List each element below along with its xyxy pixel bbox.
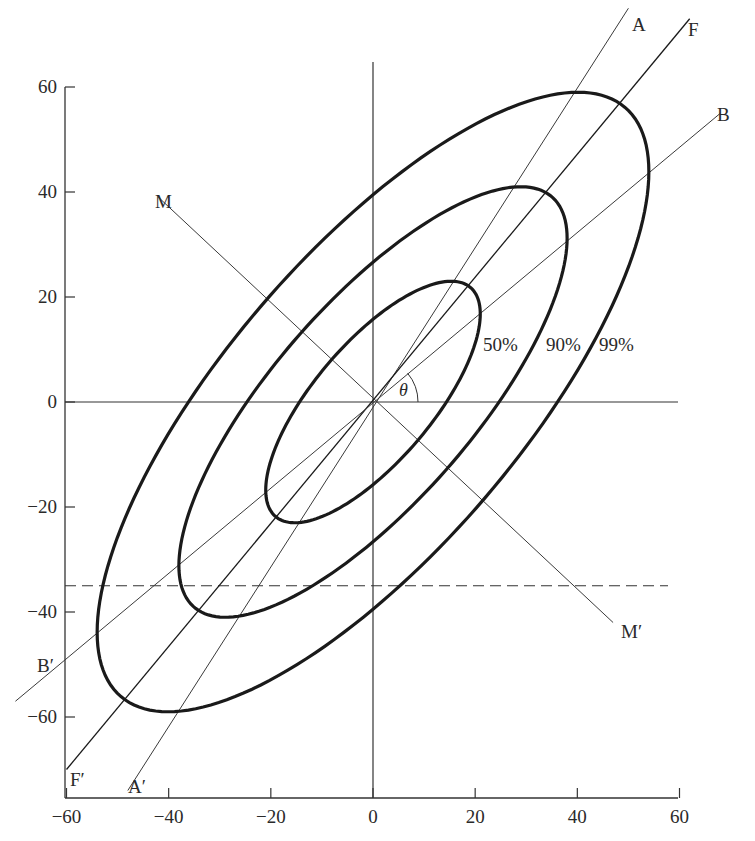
line-M xyxy=(158,197,613,622)
y-tick-label: 0 xyxy=(48,391,58,412)
label-50-percent: 50% xyxy=(483,334,518,355)
y-tick-label: 60 xyxy=(38,76,57,97)
x-tick-label: 20 xyxy=(466,806,485,827)
label-99-percent: 99% xyxy=(599,334,634,355)
x-tick-label: 60 xyxy=(670,806,689,827)
label-B-prime: B′ xyxy=(37,655,54,676)
line-F xyxy=(67,19,690,770)
label-90-percent: 90% xyxy=(546,334,581,355)
y-tick-label: −40 xyxy=(27,601,57,622)
plot-area: 6040200−20−40−60 −60−40−200204060 θ A F … xyxy=(0,0,755,841)
x-ticks: −60−40−200204060 xyxy=(52,788,689,827)
y-tick-label: 40 xyxy=(38,181,57,202)
y-tick-label: −60 xyxy=(27,706,57,727)
theta-label: θ xyxy=(399,380,408,400)
label-A-prime: A′ xyxy=(128,776,146,797)
y-tick-label: −20 xyxy=(27,496,57,517)
y-tick-label: 20 xyxy=(38,286,57,307)
label-B: B xyxy=(717,104,730,125)
label-M-prime: M′ xyxy=(621,621,642,642)
label-F: F xyxy=(688,19,699,40)
reference-lines xyxy=(15,8,720,790)
x-tick-label: −60 xyxy=(52,806,82,827)
chart-figure: 6040200−20−40−60 −60−40−200204060 θ A F … xyxy=(0,0,755,841)
x-tick-label: −40 xyxy=(154,806,184,827)
x-tick-label: −20 xyxy=(256,806,286,827)
axes: 6040200−20−40−60 −60−40−200204060 xyxy=(27,62,689,827)
label-F-prime: F′ xyxy=(70,769,85,790)
x-tick-label: 40 xyxy=(568,806,587,827)
label-M: M xyxy=(155,191,172,212)
theta-angle-arc xyxy=(408,373,418,402)
y-ticks: 6040200−20−40−60 xyxy=(27,76,75,727)
x-tick-label: 0 xyxy=(368,806,378,827)
label-A: A xyxy=(632,14,646,35)
